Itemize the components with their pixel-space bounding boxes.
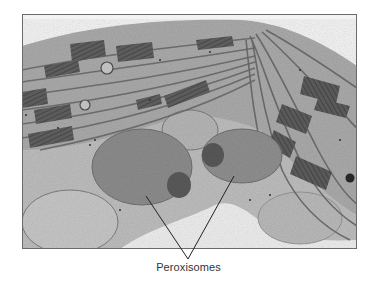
organelle-lower-left (22, 190, 118, 254)
vesicle (80, 100, 90, 110)
electron-micrograph-image (0, 0, 377, 285)
micrograph-figure: Peroxisomes (0, 0, 377, 285)
vesicle (101, 62, 113, 74)
peroxisomes-label: Peroxisomes (0, 261, 377, 273)
dark-granule (346, 174, 355, 183)
peroxisome-right-crystalloid-core (202, 143, 224, 167)
peroxisome-left-crystalloid-core (167, 172, 191, 198)
